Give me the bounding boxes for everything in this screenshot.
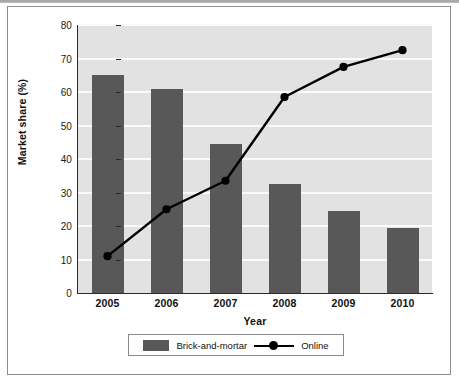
legend-line-marker-icon bbox=[254, 340, 294, 351]
chart-screenshot: 01020304050607080 Market share (%) 20052… bbox=[0, 0, 459, 382]
online-line-series bbox=[0, 0, 459, 382]
legend-swatch-brick-and-mortar bbox=[143, 340, 169, 351]
figure: 01020304050607080 Market share (%) 20052… bbox=[0, 0, 459, 382]
online-data-point-marker bbox=[221, 177, 229, 185]
online-data-point-marker bbox=[162, 205, 170, 213]
online-data-point-marker bbox=[103, 252, 111, 260]
online-data-point-marker bbox=[339, 63, 347, 71]
legend-label-online: Online bbox=[301, 340, 328, 351]
online-line-path bbox=[108, 50, 403, 256]
online-data-point-marker bbox=[280, 93, 288, 101]
legend-label-brick-and-mortar: Brick-and-mortar bbox=[176, 340, 247, 351]
legend-circle-marker-icon bbox=[269, 341, 278, 350]
online-data-point-marker bbox=[398, 46, 406, 54]
chart-legend: Brick-and-mortar Online bbox=[128, 334, 344, 356]
